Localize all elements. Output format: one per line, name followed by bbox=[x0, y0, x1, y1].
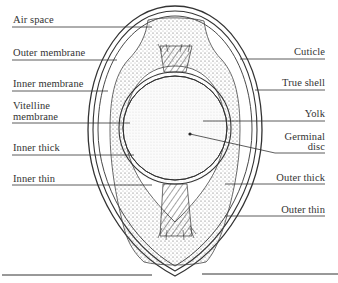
label-inner-thick: Inner thick bbox=[13, 142, 60, 153]
label-inner-membrane: Inner membrane bbox=[13, 78, 84, 89]
label-germinal-disc: disc bbox=[308, 141, 325, 152]
label-cuticle: Cuticle bbox=[294, 46, 325, 57]
label-vitelline: Vitelline bbox=[13, 100, 50, 111]
chalaza-upper bbox=[160, 46, 192, 72]
label-outer-membrane: Outer membrane bbox=[13, 47, 85, 58]
label-outer-thick: Outer thick bbox=[276, 172, 325, 183]
label-vitelline-membrane: membrane bbox=[13, 111, 58, 122]
label-inner-thin: Inner thin bbox=[13, 173, 55, 184]
yolk bbox=[123, 76, 227, 180]
label-outer-thin: Outer thin bbox=[281, 204, 325, 215]
label-air-space: Air space bbox=[13, 14, 54, 25]
label-true-shell: True shell bbox=[282, 77, 325, 88]
label-yolk: Yolk bbox=[305, 108, 325, 119]
chalaza-lower bbox=[160, 184, 192, 236]
